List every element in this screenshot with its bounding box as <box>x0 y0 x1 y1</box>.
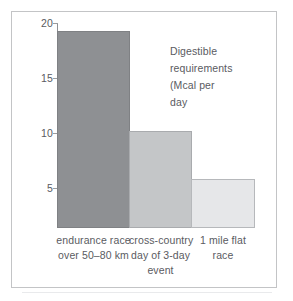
x-axis-label-cross-country-line-3: event <box>129 263 192 278</box>
chart-annotation-line-3: (Mcal per <box>170 77 274 94</box>
bar-1-mile-flat-race <box>191 179 255 228</box>
x-axis-label-1-mile-flat-race-line-1: 1 mile flat <box>191 233 255 248</box>
y-axis-tick-10: 10 <box>12 128 53 139</box>
x-axis-label-cross-country-line-1: cross-country <box>129 233 192 248</box>
figure-frame: 20 15 10 5 Digestible requirements (Mcal… <box>11 11 277 288</box>
x-axis-label-endurance-race: endurance race over 50–80 km <box>53 233 134 263</box>
x-axis-label-cross-country: cross-country day of 3-day event <box>129 233 192 278</box>
bar-chart-plot-area: 20 15 10 5 Digestible requirements (Mcal… <box>12 12 278 289</box>
x-axis-label-endurance-race-line-1: endurance race <box>53 233 134 248</box>
x-axis-label-1-mile-flat-race: 1 mile flat race <box>191 233 255 263</box>
chart-annotation-line-4: day <box>170 94 274 111</box>
x-axis-label-cross-country-line-2: day of 3-day <box>129 248 192 263</box>
chart-annotation: Digestible requirements (Mcal per day <box>170 43 274 111</box>
y-axis-tick-5: 5 <box>12 183 53 194</box>
scan-artifact-line <box>22 292 272 293</box>
x-axis-category-labels: endurance race over 50–80 km cross-count… <box>57 233 255 285</box>
y-axis-tick-label-10: 10 <box>12 128 53 139</box>
x-axis-label-1-mile-flat-race-line-2: race <box>191 248 255 263</box>
chart-annotation-line-1: Digestible <box>170 43 274 60</box>
y-axis-tick-label-5: 5 <box>12 183 53 194</box>
y-axis-tick-15: 15 <box>12 73 53 84</box>
y-axis-tick-20: 20 <box>12 18 53 29</box>
y-axis-tick-label-15: 15 <box>12 73 53 84</box>
x-axis-label-endurance-race-line-2: over 50–80 km <box>53 248 134 263</box>
bar-endurance-race <box>57 31 130 228</box>
chart-annotation-line-2: requirements <box>170 60 274 77</box>
bar-cross-country-3-day-event <box>129 131 192 228</box>
y-axis-tick-label-20: 20 <box>12 18 53 29</box>
y-axis-tick-mark-20 <box>53 23 58 24</box>
